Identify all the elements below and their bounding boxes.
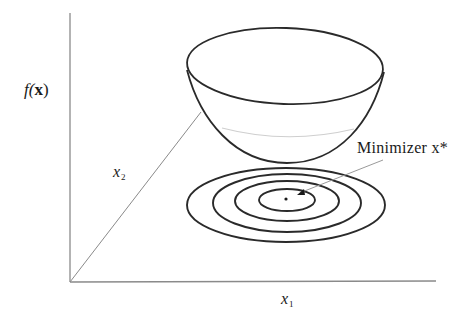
x1-subscript: 1 xyxy=(289,299,294,309)
optimization-diagram: f(x) x2 x1 Minimizer x* xyxy=(0,0,465,325)
f-prefix: f( xyxy=(24,80,34,99)
diagram-canvas xyxy=(0,0,465,325)
x2-subscript: 2 xyxy=(121,172,126,182)
minimizer-point xyxy=(284,197,287,200)
x2-base: x xyxy=(113,163,120,180)
f-bold-x: x xyxy=(34,80,43,99)
contour-ellipse-1 xyxy=(187,168,385,242)
f-suffix: ) xyxy=(43,80,49,99)
x2-axis-label: x2 xyxy=(113,163,126,182)
bowl-surface xyxy=(186,25,385,163)
x1-axis-label: x1 xyxy=(281,290,294,309)
minimizer-arrow xyxy=(297,160,383,195)
bowl-rim xyxy=(186,25,385,108)
contour-ellipse-3 xyxy=(235,181,339,221)
x2-axis-line xyxy=(70,112,201,282)
x1-base: x xyxy=(281,290,288,307)
minimizer-label: Minimizer x* xyxy=(357,139,448,157)
contour-lines xyxy=(187,168,385,242)
x1-axis-line xyxy=(70,281,436,282)
bowl-faint-contour xyxy=(222,128,354,137)
f-of-x-label: f(x) xyxy=(24,80,49,100)
bowl-body-outline xyxy=(187,70,384,163)
